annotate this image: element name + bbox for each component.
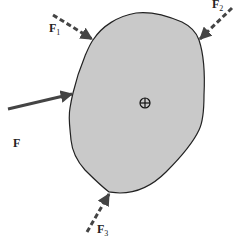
- force-diagram: F F1 F2 F3: [0, 0, 242, 241]
- force-label-f3: F3: [97, 222, 108, 238]
- force-arrow-f: [8, 94, 72, 109]
- force-label-f1: F1: [49, 21, 60, 37]
- force-arrow-f2: [200, 8, 232, 39]
- center-of-mass-icon: [140, 98, 150, 108]
- force-label-f: F: [13, 136, 20, 150]
- rigid-body: [69, 13, 204, 193]
- force-label-f2: F2: [212, 0, 223, 13]
